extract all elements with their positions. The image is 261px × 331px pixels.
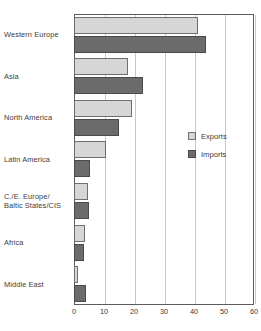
category-label-2: North America [4,113,74,122]
x-tick-10: 10 [100,307,108,316]
bar-imports-0 [74,36,206,53]
bar-chart: Western EuropeAsiaNorth AmericaLatin Ame… [0,0,261,331]
bar-imports-5 [74,244,84,261]
bar-imports-2 [74,119,119,136]
bar-group-6 [74,263,254,305]
bar-exports-1 [74,58,128,75]
category-label-5: Africa [4,238,74,247]
imports-swatch-icon [188,150,196,158]
category-label-2-line-0: North America [4,113,74,122]
chart-legend: Exports Imports [188,131,250,167]
category-label-4: C./E. Europe/Baltic States/CIS [4,192,74,210]
bar-imports-1 [74,77,143,94]
category-label-1-line-0: Asia [4,72,74,81]
category-label-6: Middle East [4,280,74,289]
category-label-4-line-1: Baltic States/CIS [4,201,74,210]
gridline-60 [255,15,256,304]
bar-group-5 [74,222,254,264]
bar-exports-6 [74,266,78,283]
bar-group-0 [74,14,254,56]
x-tick-40: 40 [190,307,198,316]
bar-exports-5 [74,225,85,242]
bar-imports-4 [74,202,89,219]
category-label-0: Western Europe [4,30,74,39]
category-label-1: Asia [4,72,74,81]
bar-exports-2 [74,100,132,117]
bar-imports-3 [74,160,90,177]
bar-imports-6 [74,285,86,302]
x-tick-60: 60 [250,307,258,316]
bar-exports-4 [74,183,88,200]
bar-exports-0 [74,17,198,34]
category-label-0-line-0: Western Europe [4,30,74,39]
category-label-4-line-0: C./E. Europe/ [4,192,74,201]
category-label-5-line-0: Africa [4,238,74,247]
bar-group-4 [74,180,254,222]
legend-label-exports: Exports [201,132,227,141]
x-axis-tick-labels: 0102030405060 [74,307,254,321]
bar-group-1 [74,56,254,98]
category-label-3-line-0: Latin America [4,155,74,164]
exports-swatch-icon [188,132,196,140]
bar-exports-3 [74,141,106,158]
legend-label-imports: Imports [201,150,226,159]
category-label-6-line-0: Middle East [4,280,74,289]
category-label-3: Latin America [4,155,74,164]
legend-item-imports: Imports [188,149,250,159]
x-tick-20: 20 [130,307,138,316]
category-axis-labels: Western EuropeAsiaNorth AmericaLatin Ame… [0,14,72,305]
x-tick-30: 30 [160,307,168,316]
legend-item-exports: Exports [188,131,250,141]
x-tick-50: 50 [220,307,228,316]
x-tick-0: 0 [72,307,76,316]
